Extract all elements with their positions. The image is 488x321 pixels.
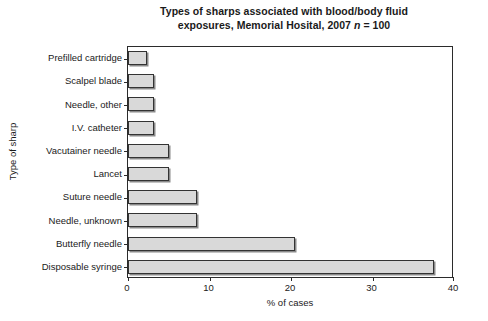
chart-title-line2-suffix: = 100 bbox=[360, 19, 390, 31]
bar bbox=[128, 74, 154, 88]
y-axis-label: Suture needle bbox=[0, 191, 127, 202]
x-axis-tick bbox=[210, 277, 211, 281]
chart-title-line1: Types of sharps associated with blood/bo… bbox=[160, 5, 408, 17]
x-axis-tick-label: 0 bbox=[107, 282, 147, 293]
bar-row bbox=[128, 117, 452, 140]
y-axis-label: Disposable syringe bbox=[0, 261, 127, 272]
bar-row bbox=[128, 186, 452, 209]
x-axis-tick bbox=[128, 277, 129, 281]
bar bbox=[128, 260, 434, 274]
bar bbox=[128, 237, 295, 251]
x-axis-tick bbox=[373, 277, 374, 281]
y-axis-label: Vacutainer needle bbox=[0, 145, 127, 156]
chart-title: Types of sharps associated with blood/bo… bbox=[104, 5, 464, 32]
bar bbox=[128, 121, 154, 135]
y-axis-label: Needle, other bbox=[0, 99, 127, 110]
y-axis-label: I.V. catheter bbox=[0, 122, 127, 133]
bar-row bbox=[128, 93, 452, 116]
bars-layer bbox=[128, 47, 452, 277]
y-axis-label: Scalpel blade bbox=[0, 75, 127, 86]
x-axis-title: % of cases bbox=[127, 297, 453, 308]
bar bbox=[128, 190, 197, 204]
chart-title-line2-prefix: exposures, Memorial Hosital, 2007 bbox=[178, 19, 354, 31]
x-axis-tick-label: 10 bbox=[189, 282, 229, 293]
bar-row bbox=[128, 233, 452, 256]
bar-row bbox=[128, 47, 452, 70]
y-axis-label: Lancet bbox=[0, 168, 127, 179]
bar bbox=[128, 213, 197, 227]
y-axis-label: Needle, unknown bbox=[0, 215, 127, 226]
bar-row bbox=[128, 163, 452, 186]
plot-area bbox=[127, 46, 453, 278]
bar-row bbox=[128, 70, 452, 93]
x-axis-tick-label: 40 bbox=[433, 282, 473, 293]
bar-row bbox=[128, 140, 452, 163]
x-axis-tick-label: 30 bbox=[352, 282, 392, 293]
x-axis-tick bbox=[291, 277, 292, 281]
bar bbox=[128, 167, 169, 181]
bar-row bbox=[128, 256, 452, 279]
y-axis-label: Prefilled cartridge bbox=[0, 52, 127, 63]
bar bbox=[128, 97, 154, 111]
bar bbox=[128, 51, 147, 65]
bar bbox=[128, 144, 169, 158]
bar-row bbox=[128, 209, 452, 232]
y-axis-label: Butterfly needle bbox=[0, 238, 127, 249]
chart-figure: Types of sharps associated with blood/bo… bbox=[0, 0, 488, 321]
x-axis-tick bbox=[453, 277, 454, 281]
x-axis-tick-label: 20 bbox=[270, 282, 310, 293]
